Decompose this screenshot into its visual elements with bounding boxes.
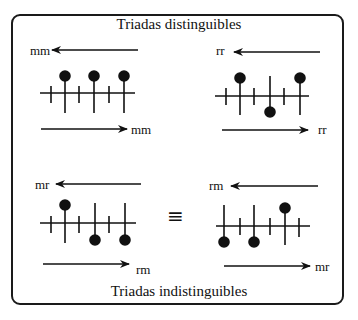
panel-bottom-right xyxy=(216,186,318,266)
panel-top-right xyxy=(215,52,320,130)
panel-top-left xyxy=(40,50,138,129)
triad-diagrams xyxy=(0,0,358,320)
panel-bottom-left xyxy=(40,184,141,264)
